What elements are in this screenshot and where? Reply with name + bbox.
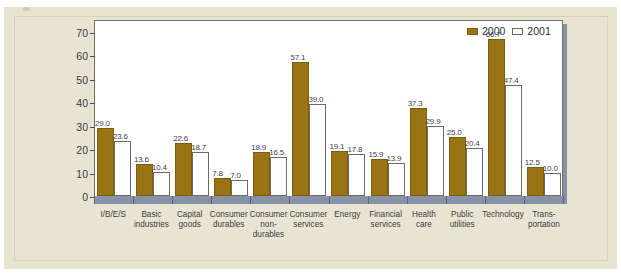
bar-group: 22.618.7 — [172, 20, 211, 196]
y-axis-tick-40: 40 — [76, 97, 95, 109]
bar-value-label-2000: 15.9 — [369, 150, 384, 159]
legend-swatch-icon — [467, 28, 478, 35]
bar-value-label-2001: 7.0 — [230, 171, 241, 180]
baseline-tick — [446, 196, 447, 204]
x-axis-label: Healthcare — [405, 210, 443, 240]
chart-legend: 20002001 — [467, 25, 551, 37]
legend-item-2001[interactable]: 2001 — [512, 25, 550, 37]
baseline-tick — [250, 196, 251, 204]
baseline-tick — [94, 196, 95, 204]
bar-2000[interactable] — [292, 62, 309, 196]
x-axis-category-labels: I/B/E/SBasicindustriesCapitalgoodsConsum… — [94, 210, 563, 240]
baseline-tick — [407, 196, 408, 204]
legend-item-2000[interactable]: 2000 — [467, 25, 505, 37]
baseline-tick — [524, 196, 525, 204]
bar-value-label-2000: 57.1 — [290, 53, 305, 62]
bar-groups: 29.023.613.610.422.618.77.87.018.916.557… — [94, 20, 563, 196]
bar-value-label-2001: 13.9 — [387, 154, 402, 163]
y-axis-tick-20: 20 — [76, 144, 95, 156]
bar-value-label-2001: 18.7 — [191, 143, 206, 152]
bar-2001[interactable] — [388, 163, 405, 196]
bar-value-label-2001: 29.9 — [426, 117, 441, 126]
bar-group: 66.747.4 — [485, 20, 524, 196]
bar-2000[interactable] — [214, 178, 231, 196]
bar-value-label-2000: 13.6 — [134, 155, 149, 164]
y-axis-tick-70: 70 — [76, 27, 95, 39]
bar-group: 18.916.5 — [250, 20, 289, 196]
legend-label: 2000 — [482, 25, 505, 37]
bar-group: 15.913.9 — [368, 20, 407, 196]
x-axis-label: I/B/E/S — [94, 210, 132, 240]
bar-value-label-2001: 39.0 — [308, 95, 323, 104]
bar-group: 29.023.6 — [94, 20, 133, 196]
bar-2000[interactable] — [331, 151, 348, 196]
bar-value-label-2000: 29.0 — [95, 119, 110, 128]
bar-2001[interactable] — [348, 154, 365, 196]
bar-value-label-2000: 22.6 — [173, 134, 188, 143]
y-axis-tick-50: 50 — [76, 74, 95, 86]
bar-value-label-2001: 23.6 — [113, 132, 128, 141]
bar-value-label-2001: 47.4 — [504, 76, 519, 85]
bar-group: 7.87.0 — [211, 20, 250, 196]
bar-value-label-2001: 20.4 — [465, 139, 480, 148]
bar-group: 25.020.4 — [446, 20, 485, 196]
bar-group: 19.117.8 — [328, 20, 367, 196]
bar-2001[interactable] — [466, 148, 483, 196]
bar-2000[interactable] — [410, 108, 427, 196]
bar-value-label-2000: 7.8 — [212, 169, 223, 178]
bar-value-label-2001: 10.0 — [543, 164, 558, 173]
bar-2001[interactable] — [231, 180, 248, 196]
bar-value-label-2000: 18.9 — [251, 143, 266, 152]
bar-value-label-2000: 25.0 — [447, 128, 462, 137]
bar-2001[interactable] — [153, 172, 170, 196]
bar-2001[interactable] — [505, 85, 522, 196]
bar-value-label-2000: 19.1 — [329, 142, 344, 151]
bar-2001[interactable] — [309, 104, 326, 196]
x-axis-label: Financialservices — [366, 210, 404, 240]
baseline-tick — [368, 196, 369, 204]
baseline-tick — [289, 196, 290, 204]
bar-2000[interactable] — [136, 164, 153, 196]
bar-2000[interactable] — [488, 39, 505, 196]
x-axis-label: Capitalgoods — [171, 210, 209, 240]
bar-value-label-2001: 16.5 — [269, 148, 284, 157]
bar-2001[interactable] — [192, 152, 209, 196]
bar-2001[interactable] — [270, 157, 287, 196]
y-axis-tick-30: 30 — [76, 121, 95, 133]
bar-2001[interactable] — [114, 141, 131, 196]
bar-value-label-2001: 17.8 — [347, 145, 362, 154]
x-axis-label: Publicutilities — [443, 210, 481, 240]
baseline-tick — [172, 196, 173, 204]
baseline-tick — [563, 196, 564, 204]
bar-2000[interactable] — [97, 128, 114, 196]
bar-2001[interactable] — [427, 126, 444, 196]
y-axis-tick-10: 10 — [76, 168, 95, 180]
bar-2001[interactable] — [544, 173, 561, 196]
bar-group: 12.510.0 — [524, 20, 563, 196]
legend-swatch-icon — [512, 28, 523, 35]
x-axis-label: Trans-portation — [525, 210, 563, 240]
bar-group: 13.610.4 — [133, 20, 172, 196]
bar-2000[interactable] — [449, 137, 466, 196]
chart-page: 010203040506070 29.023.613.610.422.618.7… — [0, 0, 621, 274]
bar-2000[interactable] — [253, 152, 270, 196]
bar-2000[interactable] — [175, 143, 192, 196]
legend-label: 2001 — [527, 25, 550, 37]
scan-artifact-speck — [23, 7, 30, 11]
baseline-tick — [485, 196, 486, 204]
bar-group: 57.139.0 — [289, 20, 328, 196]
bar-value-label-2000: 12.5 — [525, 158, 540, 167]
x-axis-label: Consumerservices — [288, 210, 328, 240]
baseline-tick — [133, 196, 134, 204]
x-axis-label: Consumerdurables — [209, 210, 249, 240]
bar-2000[interactable] — [371, 159, 388, 196]
bar-2000[interactable] — [527, 167, 544, 196]
x-axis-label: Basicindustries — [132, 210, 170, 240]
y-axis-tick-60: 60 — [76, 50, 95, 62]
axis-baseline-band — [94, 196, 567, 204]
x-axis-label: Consumernon-durables — [249, 210, 289, 240]
x-axis-label: Technology — [481, 210, 524, 240]
bar-group: 37.329.9 — [407, 20, 446, 196]
x-axis-label: Energy — [328, 210, 366, 240]
bar-value-label-2000: 37.3 — [408, 99, 423, 108]
